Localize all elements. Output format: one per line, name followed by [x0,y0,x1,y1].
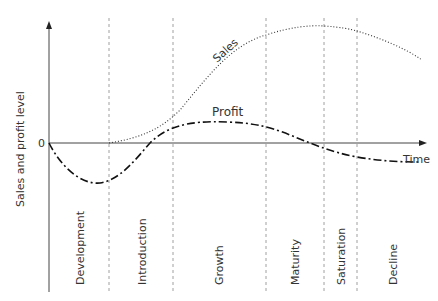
x-axis-label: Time [402,153,430,166]
x-axis-arrow-icon [419,140,427,146]
phase-labels: Development Introduction Growth Maturity… [74,210,400,285]
product-life-cycle-chart: Sales Profit 0 Time Sales and profit lev… [0,0,438,301]
phase-development: Development [74,210,87,285]
phase-introduction: Introduction [136,218,149,285]
phase-decline: Decline [387,244,400,285]
phase-maturity: Maturity [289,239,302,285]
profit-label: Profit [212,105,244,119]
sales-curve [109,26,422,143]
origin-label: 0 [38,137,45,150]
y-axis-label: Sales and profit level [14,91,27,207]
phase-saturation: Saturation [335,228,348,285]
phase-growth: Growth [213,245,226,285]
sales-label: Sales [210,36,241,65]
profit-curve [49,122,420,183]
y-axis-arrow-icon [46,21,52,29]
